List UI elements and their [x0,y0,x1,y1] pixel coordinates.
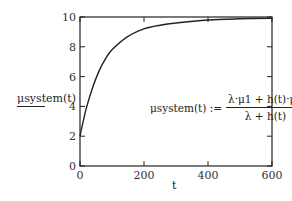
svg-text:6: 6 [69,71,76,84]
x-axis-label: t [172,179,176,192]
svg-text:600: 600 [262,169,283,182]
svg-text:2: 2 [69,130,76,143]
formula-fraction: λ·μ1 + h(t)·μ2 λ + h(t) [226,93,292,122]
formula-denominator: λ + h(t) [245,108,286,122]
y-axis-label-text: μsystem(t) [17,92,76,105]
formula-numerator: λ·μ1 + h(t)·μ2 [226,93,292,108]
y-axis-label: μsystem(t) [17,92,76,105]
svg-text:8: 8 [69,41,76,54]
svg-text:0: 0 [77,169,84,182]
formula-lhs: μsystem(t) := [150,102,222,114]
y-axis-label-underline [17,106,45,107]
svg-text:0: 0 [69,160,76,173]
svg-text:10: 10 [62,11,76,24]
svg-text:200: 200 [134,169,155,182]
formula-annotation: μsystem(t) := λ·μ1 + h(t)·μ2 λ + h(t) [150,93,292,122]
svg-text:400: 400 [198,169,219,182]
plot-frame [80,17,272,166]
